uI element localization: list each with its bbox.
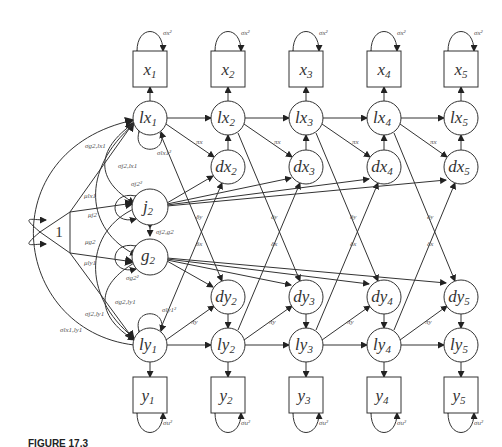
svg-text:σx²: σx² — [319, 29, 329, 37]
svg-text:πy: πy — [425, 318, 433, 326]
svg-text:πx: πx — [352, 138, 360, 146]
svg-text:σg2,lx1: σg2,lx1 — [85, 142, 106, 150]
svg-text:σlx1²: σlx1² — [157, 149, 172, 157]
svg-text:δy: δy — [350, 213, 357, 221]
figure-caption: FIGURE 17.3 — [28, 438, 88, 447]
y-residual-loops — [137, 413, 474, 433]
svg-text:δx: δx — [271, 240, 278, 248]
svg-text:σx²: σx² — [397, 29, 407, 37]
svg-text:σj2,ly1: σj2,ly1 — [85, 310, 104, 318]
svg-text:μg2: μg2 — [85, 238, 96, 246]
svg-text:σx²: σx² — [163, 29, 173, 37]
svg-text:πy: πy — [191, 318, 199, 326]
dy-labels: dy2 dy3 dy4 dy5 — [215, 287, 470, 307]
svg-text:σj2,g2: σj2,g2 — [156, 228, 174, 236]
svg-text:σj2,lx1: σj2,lx1 — [118, 162, 137, 170]
sem-path-diagram: x1 x2 x3 x4 x5 lx1 lx2 lx3 lx4 lx5 dx2 d… — [0, 0, 502, 447]
dx-labels: dx2 dx3 dx4 dx5 — [215, 157, 470, 177]
svg-text:δy: δy — [427, 213, 434, 221]
svg-text:μly1: μly1 — [84, 259, 96, 267]
y-labels: y1 y2 y3 y4 y5 — [139, 386, 466, 406]
svg-text:σx²: σx² — [241, 29, 251, 37]
svg-text:σx²: σx² — [474, 29, 484, 37]
svg-text:σly1²: σly1² — [162, 306, 177, 314]
svg-text:πx: πx — [196, 138, 204, 146]
svg-text:μj2: μj2 — [88, 211, 97, 219]
svg-text:δy: δy — [196, 213, 203, 221]
mean-arrows — [70, 122, 134, 340]
x-residual-loops — [137, 32, 474, 52]
svg-text:σj2²: σj2² — [131, 180, 143, 188]
svg-text:σlx1,ly1: σlx1,ly1 — [60, 326, 82, 334]
svg-text:πy: πy — [269, 318, 277, 326]
svg-text:δx: δx — [350, 240, 357, 248]
svg-text:δx: δx — [427, 240, 434, 248]
svg-text:σu²: σu² — [397, 419, 407, 427]
svg-text:μlx1: μlx1 — [84, 192, 96, 200]
svg-text:σu²: σu² — [241, 419, 251, 427]
svg-text:πy: πy — [347, 318, 355, 326]
svg-text:πx: πx — [430, 138, 438, 146]
svg-text:σg2²: σg2² — [126, 274, 139, 282]
constant-label: 1 — [55, 224, 63, 240]
svg-text:σu²: σu² — [474, 419, 484, 427]
parameter-labels: σx² σx² σx² σx² σx² σu² σu² σu² σu² σu² … — [60, 29, 484, 427]
svg-text:σg2,ly1: σg2,ly1 — [115, 298, 136, 306]
svg-text:σu²: σu² — [319, 419, 329, 427]
svg-text:πx: πx — [274, 138, 282, 146]
lx-to-x-arrows — [150, 87, 461, 101]
ly-to-y-arrows — [150, 362, 461, 377]
svg-text:σu²: σu² — [163, 419, 173, 427]
svg-text:δx: δx — [196, 240, 203, 248]
x-labels: x1 x2 x3 x4 x5 — [142, 60, 468, 80]
svg-text:δy: δy — [271, 213, 278, 221]
